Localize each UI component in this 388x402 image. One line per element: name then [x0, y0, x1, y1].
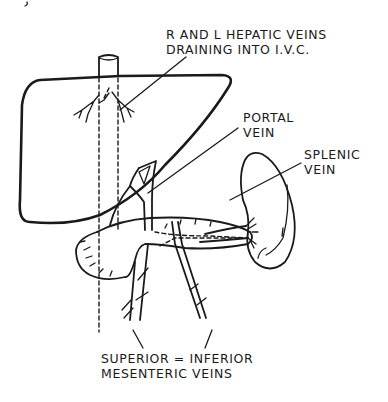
leader-superior-mesenteric: [133, 330, 143, 348]
leader-inferior-mesenteric: [205, 330, 212, 348]
hepatic-veins-label: R AND L HEPATIC VEINS DRAINING INTO I.V.…: [166, 27, 327, 57]
portal-vein-label-line1: PORTAL: [243, 110, 294, 125]
cropped-text-fragment: [25, 2, 27, 6]
mesenteric-veins-label-line1: SUPERIOR = INFERIOR: [101, 351, 253, 366]
hepatic-veins-label-line1: R AND L HEPATIC VEINS: [166, 27, 327, 42]
hepatic-veins-icon: [74, 88, 134, 122]
portal-system-diagram: R AND L HEPATIC VEINS DRAINING INTO I.V.…: [0, 0, 388, 402]
mesenteric-veins-label-line2: MESENTERIC VEINS: [101, 366, 253, 381]
splenic-vein-label-line2: VEIN: [304, 162, 360, 177]
hepatic-veins-label-line2: DRAINING INTO I.V.C.: [166, 42, 327, 57]
mesenteric-veins-label: SUPERIOR = INFERIOR MESENTERIC VEINS: [101, 351, 253, 381]
pancreas-outline: [76, 218, 252, 280]
portal-vein-label-line2: VEIN: [243, 125, 294, 140]
splenic-vein-label: SPLENIC VEIN: [304, 147, 360, 177]
anatomy-drawing: [0, 0, 388, 402]
liver-outline: [20, 75, 231, 223]
leader-hepatic-veins: [120, 57, 186, 110]
splenic-vein-label-line1: SPLENIC: [304, 147, 360, 162]
superior-mesenteric-vein-icon: [122, 244, 148, 320]
spleen-fissure: [258, 185, 288, 258]
portal-vein-label: PORTAL VEIN: [243, 110, 294, 140]
leader-portal-vein: [148, 128, 238, 193]
